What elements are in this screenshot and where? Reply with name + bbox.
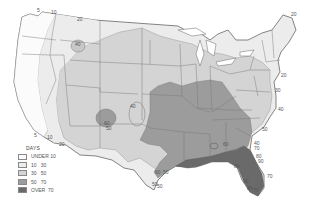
contour-label: 5 [37,7,40,13]
legend-title: DAYS [26,144,56,152]
legend-item-30-50: 30 50 [18,169,56,177]
legend-item-under-10: UNDER 10 [18,152,56,160]
contour-label: 70 [253,187,259,193]
contour-label: 50 [163,169,169,175]
contour-label: 90 [258,158,264,164]
contour-label: 20 [59,141,65,147]
contour-label: 40 [278,106,284,112]
contour-label: 70 [267,173,273,179]
contour-label: 70 [254,145,260,151]
legend-label: 10 30 [31,161,46,169]
contour-label: 50 [157,183,163,189]
contour-label: 50 [262,126,268,132]
map-legend: DAYS UNDER 10 10 30 30 50 50 70 OVER 70 [18,144,56,194]
legend-label: 50 70 [31,178,46,186]
contour-label: 60 [223,141,229,147]
contour-label: 50 [106,125,112,131]
legend-swatch [18,162,27,168]
contour-label: 30 [275,87,281,93]
legend-label: 30 50 [31,169,46,177]
legend-item-over-70: OVER 70 [18,186,56,194]
contour-label: 40 [75,41,81,47]
contour-label: 10 [51,9,57,15]
contour-label: 20 [77,16,83,22]
legend-swatch [18,170,27,176]
contour-label: 10 [47,134,53,140]
contour-label: 20 [281,72,287,78]
legend-swatch [18,154,27,160]
contour-label: 80 [247,185,253,191]
legend-label: OVER 70 [31,186,54,194]
legend-swatch [18,179,27,185]
contour-label: 40 [130,103,136,109]
contour-label: 20 [291,11,297,17]
legend-item-10-30: 10 30 [18,161,56,169]
contour-label: 80 [234,163,240,169]
contour-label: 60 [155,169,161,175]
legend-item-50-70: 50 70 [18,178,56,186]
contour-label: 5 [34,132,37,138]
legend-swatch [18,187,27,193]
contour-label: 90 [243,178,249,184]
legend-label: UNDER 10 [31,152,56,160]
